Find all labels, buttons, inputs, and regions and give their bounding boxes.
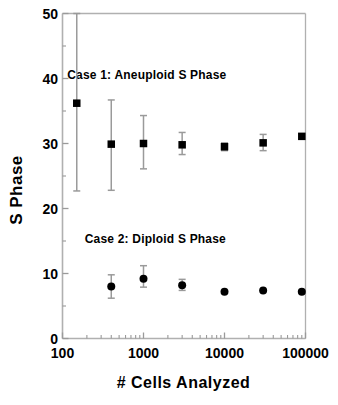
data-point-circle bbox=[298, 288, 306, 296]
data-point-square bbox=[108, 140, 116, 148]
series-2 bbox=[107, 266, 306, 299]
data-point-circle bbox=[259, 286, 267, 294]
data-point-square bbox=[73, 99, 81, 107]
data-point-circle bbox=[107, 283, 115, 291]
data-point-square bbox=[259, 139, 267, 147]
data-point-square bbox=[298, 133, 306, 141]
data-point-circle bbox=[140, 275, 148, 283]
data-point-square bbox=[140, 140, 148, 148]
chart-figure: S Phase # Cells Analyzed 01020304050 100… bbox=[0, 0, 338, 405]
series-1 bbox=[73, 14, 306, 191]
data-point-circle bbox=[221, 288, 229, 296]
data-point-square bbox=[221, 143, 229, 151]
data-series-layer bbox=[73, 14, 306, 299]
data-point-circle bbox=[178, 281, 186, 289]
plot-area bbox=[0, 0, 338, 405]
data-point-square bbox=[178, 141, 186, 149]
